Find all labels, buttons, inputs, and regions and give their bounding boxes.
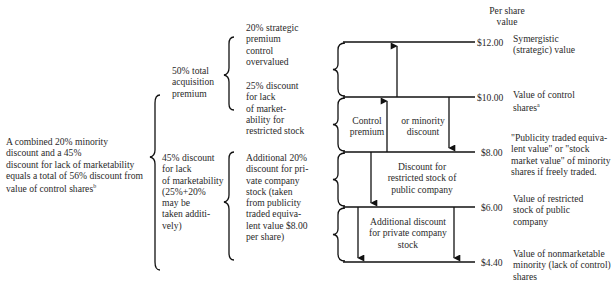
restricted-discount-note: 25% discount for lack of market- ability… bbox=[246, 80, 318, 136]
label-publicly-traded: "Publicity traded equiva- lent value" or… bbox=[511, 132, 615, 177]
value-12: $12.00 bbox=[477, 37, 503, 48]
value-10: $10.00 bbox=[477, 92, 503, 103]
label-nonmarketable-minority: Value of nonmarketable minority (lack of… bbox=[513, 248, 615, 282]
combined-discount-text: A combined 20% minority discount and a 4… bbox=[6, 136, 143, 194]
acquisition-premium-note: 50% total acquisition premium bbox=[172, 65, 232, 99]
marketability-discount-note: 45% discount for lack of marketability (… bbox=[162, 152, 228, 231]
band-control-premium: Control premium bbox=[349, 115, 385, 138]
combined-discount-note: A combined 20% minority discount and a 4… bbox=[6, 136, 156, 195]
footnote-b: b bbox=[93, 183, 96, 189]
value-8: $8.00 bbox=[481, 147, 503, 158]
band-private-company: Additional discount for private company … bbox=[362, 216, 454, 250]
label-control-shares-text: Value of control shares bbox=[513, 89, 575, 113]
strategic-premium-note: 20% strategic premium control overvalued bbox=[246, 22, 316, 67]
value-4.40: $4.40 bbox=[481, 257, 503, 268]
label-synergistic-value: Symergistic (strategic) value bbox=[513, 33, 613, 56]
label-control-shares: Value of control sharesa bbox=[513, 89, 613, 114]
value-6: $6.00 bbox=[481, 202, 503, 213]
band-minority-discount: or minority discount bbox=[398, 115, 448, 138]
per-share-header: Per share value bbox=[480, 5, 534, 28]
private-discount-note: Additional 20% discount for pri- vate co… bbox=[246, 152, 318, 242]
footnote-a: a bbox=[537, 102, 540, 108]
band-restricted-public: Discount for restricted stock of public … bbox=[374, 161, 470, 195]
label-restricted-stock: Value of restricted stock of public comp… bbox=[513, 193, 613, 227]
